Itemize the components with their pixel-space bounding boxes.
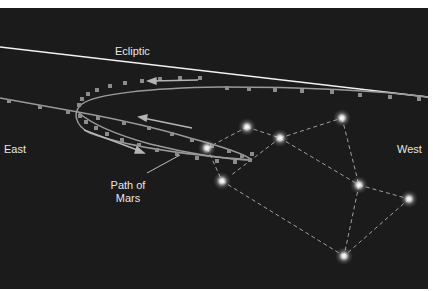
path-label-line1: Path of	[107, 179, 149, 192]
ecliptic-line	[0, 47, 428, 97]
arrow-icon	[152, 80, 198, 81]
ecliptic-label: Ecliptic	[115, 45, 150, 58]
star-icon	[198, 139, 216, 157]
star-icon	[238, 118, 256, 136]
path-of-mars-label: Path of Mars	[107, 179, 149, 205]
arrow-icon	[84, 130, 140, 151]
star-icon	[213, 172, 231, 190]
constellation-lines	[207, 118, 409, 256]
sky-diagram: Ecliptic East West Path of Mars	[0, 8, 428, 289]
path-label-pointer	[147, 155, 180, 173]
star-icon	[271, 129, 289, 147]
path-label-line2: Mars	[107, 192, 149, 205]
retrograde-diagram-graphic	[0, 8, 428, 289]
star-icon	[400, 190, 418, 208]
star-icon	[350, 176, 368, 194]
star-icon	[335, 247, 353, 265]
east-label: East	[4, 143, 26, 156]
west-label: West	[397, 143, 422, 156]
star-icon	[333, 109, 351, 127]
